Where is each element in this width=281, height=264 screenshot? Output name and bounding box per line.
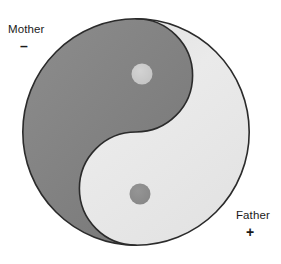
father-polarity-sign: + xyxy=(246,225,254,239)
dark-dot-in-light-lobe xyxy=(130,184,151,205)
mother-label: Mother xyxy=(8,23,44,36)
figure-canvas: Mother – Father + xyxy=(0,0,281,264)
light-dot-in-dark-lobe xyxy=(132,64,153,85)
father-label: Father xyxy=(236,209,270,222)
mother-polarity-sign: – xyxy=(20,39,28,53)
yin-yang-diagram xyxy=(0,0,281,264)
